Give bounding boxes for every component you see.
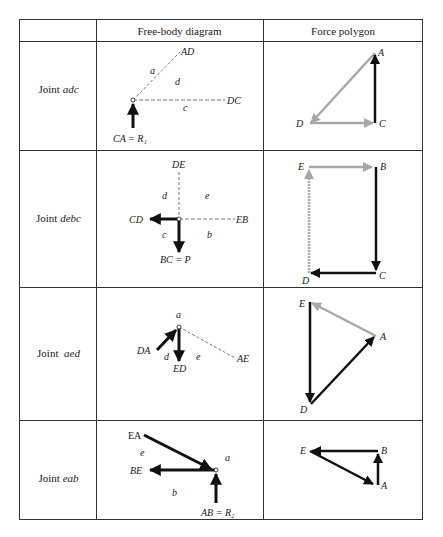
- svg-text:d: d: [175, 76, 181, 87]
- svg-text:A: A: [377, 47, 385, 58]
- svg-text:A: A: [379, 331, 387, 342]
- svg-text:D: D: [299, 404, 308, 415]
- svg-text:BC = P: BC = P: [160, 254, 191, 265]
- svg-text:ED: ED: [172, 363, 187, 374]
- svg-text:E: E: [297, 161, 304, 172]
- force-polygon-debc: E B C D: [297, 161, 386, 286]
- svg-text:d: d: [164, 351, 170, 362]
- svg-text:a: a: [225, 452, 230, 463]
- svg-text:B: B: [380, 161, 386, 172]
- svg-text:C: C: [379, 118, 386, 129]
- svg-text:D: D: [295, 118, 304, 129]
- force-arrow-da: [157, 330, 176, 350]
- force-polygon-eab: E B A: [299, 445, 388, 491]
- svg-text:EA: EA: [128, 430, 142, 441]
- svg-text:AB = R₂: AB = R₂: [200, 507, 235, 518]
- svg-text:D: D: [301, 275, 310, 286]
- svg-text:CD: CD: [129, 214, 144, 225]
- svg-text:CA = R₁: CA = R₁: [113, 133, 147, 144]
- fbd-joint-aed: DA ED AE a d e: [136, 309, 249, 374]
- svg-text:b: b: [172, 487, 177, 498]
- diagrams-layer: AD DC CA = R₁ a d c A D C DE CD EB BC = …: [0, 0, 443, 537]
- svg-text:e: e: [140, 447, 145, 458]
- svg-text:DA: DA: [136, 345, 151, 356]
- svg-text:C: C: [379, 270, 386, 281]
- svg-text:c: c: [183, 102, 188, 113]
- force-polygon-adc: A D C: [295, 47, 386, 129]
- svg-text:E: E: [298, 298, 305, 309]
- svg-text:AD: AD: [180, 46, 195, 57]
- svg-text:DE: DE: [171, 159, 185, 170]
- svg-text:B: B: [381, 445, 387, 456]
- force-polygon-aed: E A D: [298, 298, 387, 415]
- svg-text:c: c: [162, 229, 167, 240]
- svg-text:a: a: [150, 65, 155, 76]
- svg-text:A: A: [380, 480, 388, 491]
- svg-text:AE: AE: [236, 353, 249, 364]
- svg-text:a: a: [176, 309, 181, 320]
- force-arrow-ea: [144, 435, 211, 469]
- svg-text:e: e: [205, 190, 210, 201]
- svg-text:e: e: [196, 351, 201, 362]
- fbd-joint-debc: DE CD EB BC = P d e c b: [129, 159, 248, 265]
- svg-text:EB: EB: [235, 214, 248, 225]
- svg-text:E: E: [299, 445, 306, 456]
- fbd-joint-adc: AD DC CA = R₁ a d c: [113, 46, 241, 144]
- svg-text:b: b: [207, 229, 212, 240]
- fbd-joint-eab: EA BE AB = R₂ e a b: [128, 430, 235, 518]
- svg-text:DC: DC: [226, 95, 241, 106]
- svg-text:d: d: [162, 190, 168, 201]
- svg-text:BE: BE: [130, 465, 142, 476]
